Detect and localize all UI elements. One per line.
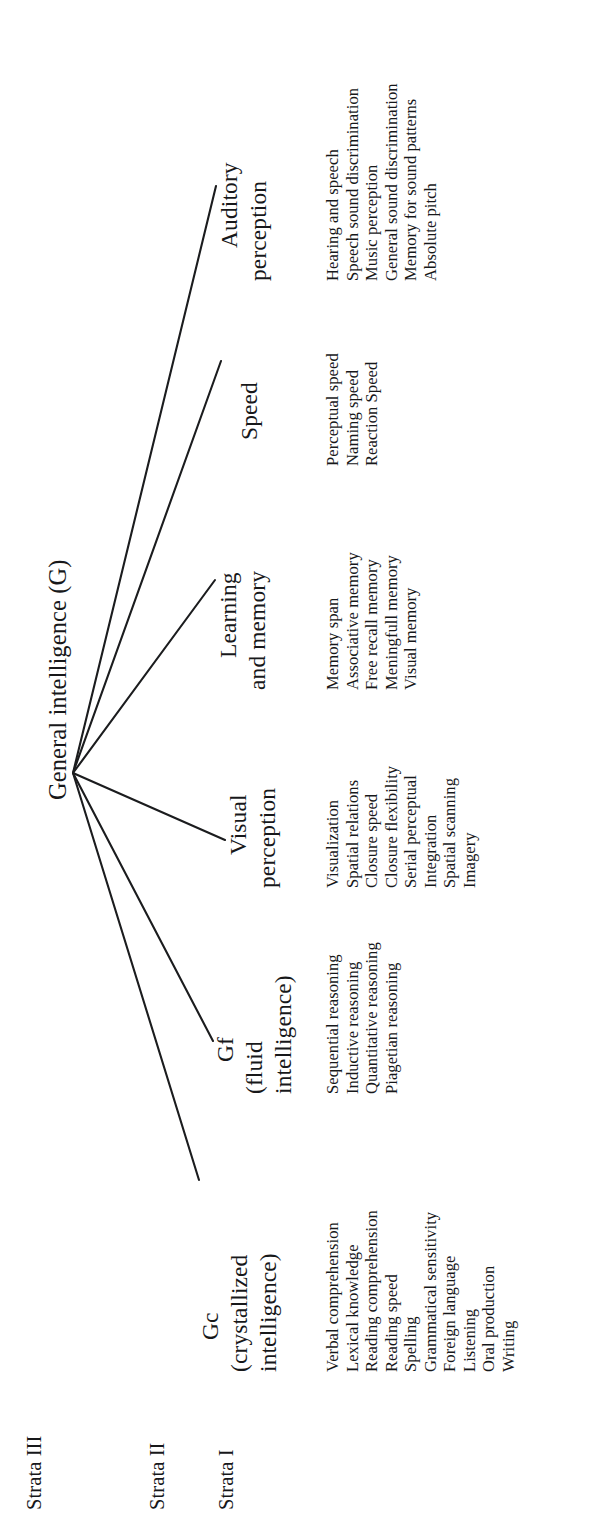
factor-label-gf-line-1: Gf	[214, 1037, 238, 1062]
ability-visual-perception-3: Closure flexibility	[384, 766, 401, 888]
ability-visual-perception-6: Spatial scanning	[442, 778, 459, 888]
factor-label-auditory-perception-line-1: Auditory	[218, 162, 242, 248]
ability-gc-0: Verbal comprehension	[325, 1222, 342, 1372]
ability-gc-8: Oral production	[481, 1266, 498, 1372]
ability-auditory-perception-2: Music perception	[364, 165, 381, 281]
ability-auditory-perception-3: General sound discrimination	[384, 83, 401, 281]
factor-label-auditory-perception-line-2: perception	[247, 181, 271, 281]
factor-label-gf-line-2: (fluid	[243, 1041, 267, 1094]
ability-gf-3: Piagetian reasoning	[384, 963, 401, 1094]
ability-gf-0: Sequential reasoning	[325, 954, 342, 1094]
ability-speed-0: Perceptual speed	[325, 353, 342, 466]
ability-visual-perception-2: Closure speed	[364, 794, 381, 888]
root-node-general-intelligence: General intelligence (G)	[46, 560, 71, 800]
factor-label-gf-line-3: intelligence)	[272, 975, 296, 1094]
ability-visual-perception-7: Imagery	[462, 832, 479, 888]
ability-auditory-perception-5: Absolute pitch	[423, 183, 440, 281]
strata-caption-1: Strata I	[216, 1449, 237, 1510]
factor-label-gc-line-2: (crystallized	[228, 1255, 252, 1372]
strata-caption-3: Strata III	[24, 1436, 45, 1510]
strata-caption-2: Strata II	[147, 1443, 168, 1511]
factor-label-learning-and-memory-line-2: and memory	[246, 571, 270, 690]
ability-learning-and-memory-0: Memory span	[325, 598, 342, 690]
factor-label-speed-line-1: Speed	[238, 382, 262, 440]
diagram-canvas: General intelligence (G) Gc (crystallize…	[0, 0, 616, 1533]
ability-gf-2: Quantitative reasoning	[364, 942, 381, 1094]
ability-speed-1: Naming speed	[345, 370, 362, 466]
factor-label-learning-and-memory-line-1: Learning	[217, 572, 241, 658]
connector-line-gf	[73, 773, 213, 1041]
ability-gc-7: Listening	[462, 1309, 479, 1372]
ability-gc-3: Reading speed	[384, 1274, 401, 1372]
ability-gc-1: Lexical knowledge	[345, 1244, 362, 1372]
connector-line-speed	[73, 361, 221, 773]
ability-gc-2: Reading comprehension	[364, 1210, 381, 1372]
connector-line-gc	[73, 773, 199, 1180]
factor-label-gc-line-3: intelligence)	[257, 1253, 281, 1372]
ability-speed-2: Reaction Speed	[364, 362, 381, 466]
connector-line-learning-and-memory	[73, 580, 215, 773]
ability-gc-6: Foreign language	[442, 1256, 459, 1372]
ability-visual-perception-0: Visualization	[325, 800, 342, 888]
ability-gc-4: Spelling	[403, 1316, 420, 1372]
connector-line-auditory-perception	[73, 186, 216, 773]
ability-visual-perception-5: Integration	[423, 815, 440, 888]
ability-gf-1: Inductive reasoning	[345, 962, 362, 1094]
connector-fan	[0, 0, 616, 1533]
ability-auditory-perception-0: Hearing and speech	[325, 149, 342, 281]
factor-label-visual-perception-line-2: perception	[256, 788, 280, 888]
ability-learning-and-memory-3: Meningfull memory	[384, 555, 401, 690]
ability-auditory-perception-4: Memory for sound patterns	[403, 99, 420, 281]
ability-gc-9: Writing	[501, 1321, 518, 1372]
ability-learning-and-memory-4: Visual memory	[403, 588, 420, 690]
connector-line-visual-perception	[73, 773, 225, 840]
ability-gc-5: Grammatical sensitivity	[423, 1212, 440, 1372]
factor-label-gc-line-1: Gc	[199, 1312, 223, 1340]
ability-auditory-perception-1: Speech sound discrimination	[345, 88, 362, 281]
ability-learning-and-memory-2: Free recall memory	[364, 559, 381, 690]
factor-label-visual-perception-line-1: Visual	[227, 794, 251, 855]
ability-visual-perception-4: Serial perceptual	[403, 775, 420, 888]
ability-visual-perception-1: Spatial relations	[345, 780, 362, 888]
ability-learning-and-memory-1: Associative memory	[345, 552, 362, 690]
